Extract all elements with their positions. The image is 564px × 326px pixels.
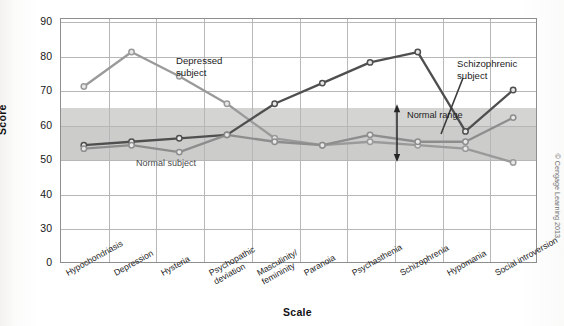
data-point-schizophrenic-subject-5 — [320, 80, 325, 85]
credit-text: © Cengage Learning 2013 — [553, 154, 562, 238]
annotation-schizophrenic-line1: Schizophrenic — [457, 58, 517, 70]
data-point-normal-subject-9 — [510, 115, 515, 120]
annotation-normal-subject: Normal subject — [136, 158, 196, 170]
annotation-schizophrenic-line2: subject — [457, 70, 517, 82]
data-point-normal-subject-4 — [272, 139, 277, 144]
data-point-depressed-subject-3 — [224, 101, 229, 106]
annotation-depressed-subject: Depressed subject — [176, 55, 222, 78]
data-point-depressed-subject-8 — [463, 146, 468, 151]
data-point-normal-subject-1 — [129, 143, 134, 148]
data-point-normal-subject-6 — [367, 132, 372, 137]
data-point-normal-subject-8 — [463, 139, 468, 144]
series-line-depressed-subject — [84, 52, 513, 162]
data-point-normal-subject-7 — [415, 139, 420, 144]
data-point-depressed-subject-0 — [81, 84, 86, 89]
data-series-lines — [0, 0, 564, 326]
series-line-schizophrenic-subject — [84, 52, 513, 145]
data-point-normal-subject-2 — [177, 149, 182, 154]
data-point-schizophrenic-subject-6 — [367, 60, 372, 65]
data-point-normal-subject-5 — [320, 143, 325, 148]
data-point-depressed-subject-1 — [129, 49, 134, 54]
data-point-normal-subject-3 — [224, 132, 229, 137]
data-point-schizophrenic-subject-4 — [272, 101, 277, 106]
data-point-depressed-subject-9 — [510, 160, 515, 165]
figure-root: 030405060708090 Score Scale Hypochondria… — [0, 0, 564, 326]
annotation-depressed-line2: subject — [176, 67, 222, 79]
data-point-depressed-subject-6 — [367, 139, 372, 144]
annotation-schizophrenic-subject: Schizophrenic subject — [457, 58, 517, 81]
leader-line-schizophrenic — [441, 78, 463, 134]
annotation-normal-range: Normal range — [407, 110, 463, 122]
data-point-schizophrenic-subject-2 — [177, 136, 182, 141]
data-point-schizophrenic-subject-8 — [463, 129, 468, 134]
annotation-depressed-line1: Depressed — [176, 55, 222, 67]
normal-range-double-arrow — [394, 104, 400, 162]
data-point-schizophrenic-subject-7 — [415, 49, 420, 54]
data-point-schizophrenic-subject-9 — [510, 87, 515, 92]
data-point-normal-subject-0 — [81, 146, 86, 151]
